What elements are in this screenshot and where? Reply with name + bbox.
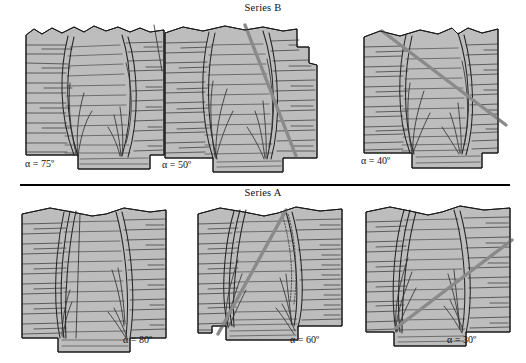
alpha-label-b-75: α = 75º: [25, 158, 54, 169]
alpha-label-a-30: α = 30º: [447, 334, 476, 345]
alpha-label-b-50: α = 50º: [162, 159, 191, 170]
panel-a-30: [362, 200, 522, 355]
panel-a-80: [20, 200, 180, 355]
alpha-label-a-60: α = 60º: [290, 334, 319, 345]
alpha-label-b-40: α = 40º: [361, 155, 390, 166]
panel-b-75: [22, 23, 182, 178]
panel-b-50: [159, 23, 324, 178]
alpha-label-a-80: α = 80º: [123, 334, 152, 345]
figure-root: Series B: [0, 0, 526, 363]
series-a-title: Series A: [0, 187, 526, 198]
series-b-title: Series B: [0, 2, 526, 13]
panel-a-60: [190, 200, 358, 355]
